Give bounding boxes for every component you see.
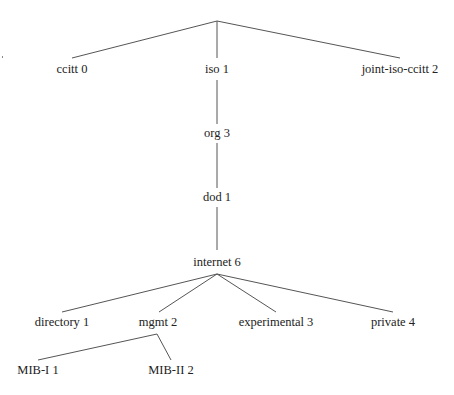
node-iso: iso 1 bbox=[205, 62, 229, 76]
node-directory: directory 1 bbox=[35, 315, 90, 329]
edge-internet-private bbox=[217, 274, 393, 312]
edge-root-joint-iso-ccitt bbox=[217, 21, 400, 58]
edge-internet-mgmt bbox=[159, 274, 217, 312]
node-experimental: experimental 3 bbox=[239, 315, 314, 329]
node-mib-ii: MIB-II 2 bbox=[148, 363, 193, 377]
node-ccitt: ccitt 0 bbox=[57, 62, 88, 76]
edge-mgmt-mib2 bbox=[157, 334, 171, 360]
edge-root-ccitt bbox=[72, 21, 217, 58]
node-joint-iso-ccitt: joint-iso-ccitt 2 bbox=[362, 62, 439, 76]
node-internet: internet 6 bbox=[193, 255, 241, 269]
node-mgmt: mgmt 2 bbox=[139, 315, 178, 329]
edge-internet-directory bbox=[62, 274, 217, 312]
stray-mark bbox=[2, 56, 3, 58]
edge-internet-experimental bbox=[217, 274, 276, 312]
node-dod: dod 1 bbox=[203, 190, 231, 204]
node-private: private 4 bbox=[371, 315, 415, 329]
edge-mgmt-mib1 bbox=[38, 334, 157, 360]
node-mib-i: MIB-I 1 bbox=[17, 363, 58, 377]
node-org: org 3 bbox=[204, 126, 230, 140]
